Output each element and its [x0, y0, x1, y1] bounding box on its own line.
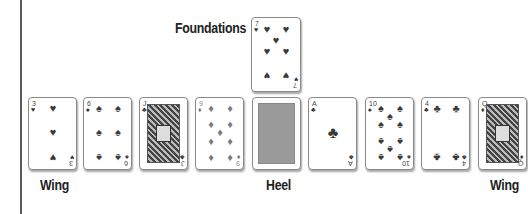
diamond-icon: ♦ [224, 152, 236, 163]
heart-icon: ♥ [47, 127, 59, 138]
card-rank: 4 [462, 160, 466, 167]
jack-face-artwork [147, 104, 180, 163]
spade-icon: ♠ [86, 106, 90, 113]
card-rank: 3 [69, 160, 73, 167]
heart-icon: ♥ [47, 103, 59, 114]
card-back-pattern [258, 103, 295, 164]
heart-icon: ♥ [280, 70, 292, 81]
wing-label-right: Wing [490, 177, 519, 193]
heel-label: Heel [266, 177, 291, 193]
heart-icon: ♥ [47, 152, 59, 163]
tableau-card-6-spades[interactable]: 6 ♠ ♠ ♠ ♠ ♠ ♠ ♠ ♠ 6 [83, 97, 132, 170]
club-icon: ♣ [431, 103, 443, 114]
card-rank: A [348, 160, 353, 167]
heart-icon: ♥ [280, 46, 292, 57]
tableau-card-3-hearts[interactable]: 3 ♥ ♥ ♥ ♥ ♥ 3 [28, 97, 77, 170]
diamond-icon: ♦ [205, 152, 217, 163]
card-rank: Q [518, 160, 523, 167]
spade-icon: ♠ [112, 103, 124, 114]
tableau-card-queen-diamonds[interactable]: Q ♦ ♦ Q [478, 97, 527, 170]
club-icon: ♣ [424, 106, 429, 113]
diamond-icon: ♦ [205, 103, 217, 114]
wing-label-left: Wing [40, 177, 69, 193]
spade-icon: ♠ [394, 119, 406, 130]
foundation-card-7-hearts[interactable]: 7 ♥ ♥ ♥ ♥ ♥ ♥ ♥ ♥ ♥ 7 [251, 17, 301, 92]
spade-icon: ♠ [375, 152, 387, 163]
spade-icon: ♠ [112, 152, 124, 163]
spade-icon: ♠ [375, 119, 387, 130]
heart-icon: ♥ [270, 35, 282, 46]
card-rank: J [181, 160, 185, 167]
tableau-card-4-clubs[interactable]: 4 ♣ ♣ ♣ ♣ ♣ ♣ 4 [421, 97, 470, 170]
club-icon: ♣ [450, 152, 462, 163]
spade-icon: ♠ [93, 152, 105, 163]
heart-icon: ♥ [261, 70, 273, 81]
card-rank: 9 [236, 160, 240, 167]
spade-icon: ♠ [93, 127, 105, 138]
club-icon: ♣ [431, 152, 443, 163]
heel-card-face-down[interactable] [252, 97, 301, 170]
spade-icon: ♠ [112, 127, 124, 138]
heart-icon: ♥ [261, 24, 273, 35]
foundations-label: Foundations [175, 20, 246, 36]
heart-icon: ♥ [280, 24, 292, 35]
diamond-icon: ♦ [224, 103, 236, 114]
queen-face-artwork [486, 104, 519, 163]
card-rank: 7 [293, 82, 297, 89]
tableau-card-jack-clubs[interactable]: J ♣ ♣ J [139, 97, 188, 170]
diamond-icon: ♦ [481, 106, 485, 113]
club-icon: ♣ [450, 103, 462, 114]
tableau-card-10-spades[interactable]: 10 ♠ ♠ ♠ ♠ ♠ ♠ ♠ ♠ ♠ ♠ ♠ ♠ 10 [365, 97, 414, 170]
club-icon: ♣ [311, 106, 316, 113]
diamond-icon: ♦ [224, 136, 236, 147]
spade-icon: ♠ [93, 103, 105, 114]
left-border-line [20, 0, 22, 214]
club-icon: ♣ [325, 125, 341, 141]
card-rank: 6 [124, 160, 128, 167]
diamond-icon: ♦ [205, 136, 217, 147]
diamond-icon: ♦ [198, 106, 202, 113]
spade-icon: ♠ [368, 106, 372, 113]
heart-icon: ♥ [254, 26, 258, 33]
card-rank: 10 [402, 160, 410, 167]
tableau-card-9-diamonds[interactable]: 9 ♦ ♦ ♦ ♦ ♦ ♦ ♦ ♦ ♦ ♦ ♦ 9 [195, 97, 244, 170]
tableau-card-ace-clubs[interactable]: A ♣ ♣ ♣ A [308, 97, 357, 170]
heart-icon: ♥ [31, 106, 35, 113]
heart-icon: ♥ [261, 46, 273, 57]
club-icon: ♣ [142, 106, 147, 113]
